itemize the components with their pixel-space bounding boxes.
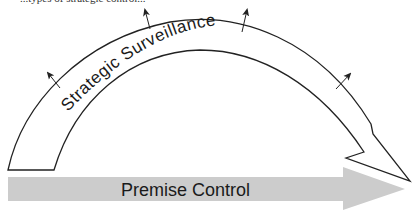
premise-control-arrow: Premise Control: [8, 167, 405, 210]
svg-text:...types of strategic control.: ...types of strategic control...: [20, 0, 146, 4]
premise-control-label: Premise Control: [121, 180, 250, 200]
strategic-control-diagram: ...types of strategic control... Premise…: [0, 0, 413, 211]
outward-arrow-icon: [145, 10, 150, 29]
strategic-surveillance-arrow: Strategic Surveillance: [8, 10, 410, 181]
top-caption-cropped: ...types of strategic control...: [20, 0, 146, 4]
